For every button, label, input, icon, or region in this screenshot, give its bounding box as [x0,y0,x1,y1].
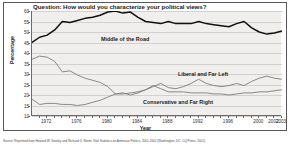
y-tick-label: 25 [11,82,29,87]
y-tick-label: 30 [11,72,29,77]
y-tick-label: 15 [11,103,29,108]
y-tick-mark [28,11,30,12]
x-tick-mark [145,116,146,118]
x-tick-label: 1984 [132,119,142,124]
y-tick-mark [28,43,30,44]
x-tick-mark [236,116,237,118]
x-tick-label: 1992 [193,119,203,124]
x-tick-mark [205,116,206,118]
x-tick-label: 2000 [253,119,263,124]
series-line [32,11,282,43]
y-tick-mark [28,74,30,75]
x-tick-label: 1972 [41,119,51,124]
y-tick-label: 20 [11,93,29,98]
y-tick-label: 40 [11,51,29,56]
y-tick-label: 45 [11,40,29,45]
x-tick-mark [183,116,184,118]
series-label-middle-of-the-road: Middle of the Road [101,36,149,42]
x-tick-label: 1996 [223,119,233,124]
x-tick-mark [152,116,153,118]
y-axis-ticks: 6055504540353025201510 [8,11,29,116]
y-tick-mark [28,32,30,33]
x-tick-mark [220,116,221,118]
x-tick-mark [122,116,123,118]
series-label-conservative-and-far-right: Conservative and Far Right [143,99,213,105]
x-tick-mark [266,116,267,118]
x-tick-label: 1980 [102,119,112,124]
source-note: Source: Reprinted from Howard W. Stanley… [3,139,288,143]
gridline-horizontal [32,116,282,117]
y-tick-mark [28,116,30,117]
x-tick-mark [243,116,244,118]
y-tick-mark [28,22,30,23]
x-tick-mark [175,116,176,118]
x-tick-mark [190,116,191,118]
y-tick-label: 35 [11,61,29,66]
x-tick-mark [129,116,130,118]
y-tick-mark [28,64,30,65]
x-tick-mark [160,116,161,118]
x-tick-mark [92,116,93,118]
x-tick-mark [61,116,62,118]
x-tick-mark [114,116,115,118]
x-tick-label: 1976 [71,119,81,124]
x-tick-mark [84,116,85,118]
x-tick-label: 2003 [276,119,286,124]
series-line [32,56,282,95]
y-tick-mark [28,106,30,107]
figure-container: Question: How would you characterize you… [0,0,291,147]
y-tick-mark [28,85,30,86]
x-tick-label: 1988 [162,119,172,124]
y-tick-mark [28,53,30,54]
x-tick-mark [54,116,55,118]
y-tick-label: 60 [11,9,29,14]
x-tick-mark [39,116,40,118]
x-axis-label: Year [0,125,291,131]
y-tick-label: 50 [11,30,29,35]
x-tick-mark [69,116,70,118]
chart-title: Question: How would you characterize you… [33,3,206,11]
y-tick-label: 10 [11,114,29,119]
x-tick-mark [251,116,252,118]
y-tick-mark [28,95,30,96]
x-tick-mark [213,116,214,118]
y-tick-label: 55 [11,19,29,24]
series-label-liberal-and-far-left: Liberal and Far Left [178,71,228,77]
x-tick-mark [99,116,100,118]
